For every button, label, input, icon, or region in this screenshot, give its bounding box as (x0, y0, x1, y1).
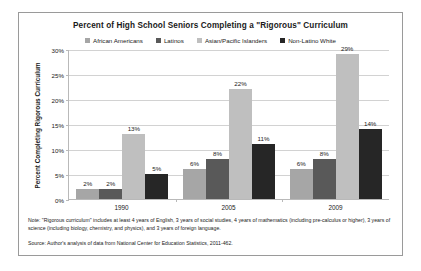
bar: 8% (313, 159, 336, 199)
bar: 14% (359, 129, 382, 199)
legend-item-asian-pacific-islanders: Asian/Pacific Islanders (197, 37, 267, 44)
legend-swatch-icon (156, 38, 161, 43)
bar: 6% (183, 169, 206, 199)
x-axis-tick-mark (282, 199, 283, 202)
x-axis-label: 1990 (68, 204, 175, 211)
note-text: Note: "Rigorous curriculum" includes at … (28, 216, 393, 232)
bar: 13% (122, 134, 145, 199)
bar-groups: 2%2%13%5%6%8%22%11%6%8%29%14% (69, 50, 389, 199)
legend-item-african-americans: African Americans (85, 37, 143, 44)
bar: 8% (206, 159, 229, 199)
bar-value-label: 6% (190, 160, 199, 167)
y-axis-title: Percent Completing Rigorous Curriculum (31, 50, 43, 200)
bar: 2% (76, 189, 99, 199)
y-tick-label: 30% (52, 47, 64, 54)
bar-value-label: 2% (106, 180, 115, 187)
bar-value-label: 2% (83, 180, 92, 187)
bar-value-label: 29% (341, 45, 353, 52)
y-tick-label: 25% (52, 72, 64, 79)
bar-group: 6%8%29%14% (282, 50, 389, 199)
bar: 6% (290, 169, 313, 199)
legend-swatch-icon (197, 38, 202, 43)
bar: 2% (99, 189, 122, 199)
x-axis-tick-mark (176, 199, 177, 202)
y-axis-ticks: 0%5%10%15%20%25%30% (44, 50, 66, 200)
bar: 29% (336, 54, 359, 199)
legend-label: Latinos (164, 37, 184, 44)
bar-value-label: 22% (234, 80, 246, 87)
legend-swatch-icon (85, 38, 90, 43)
x-axis-label: 2005 (175, 204, 282, 211)
legend-label: African Americans (93, 37, 143, 44)
y-tick-mark (66, 200, 69, 201)
y-tick-label: 20% (52, 97, 64, 104)
y-tick-label: 10% (52, 147, 64, 154)
chart-title: Percent of High School Seniors Completin… (19, 21, 402, 30)
legend-item-latinos: Latinos (156, 37, 184, 44)
legend-item-non-latino-white: Non-Latino White (280, 37, 336, 44)
legend-swatch-icon (280, 38, 285, 43)
plot-wrapper: Percent Completing Rigorous Curriculum 0… (33, 50, 389, 210)
x-axis-labels: 199020052009 (68, 204, 389, 211)
chart-figure: Percent of High School Seniors Completin… (18, 12, 403, 256)
x-axis-label: 2009 (282, 204, 389, 211)
y-tick-label: 5% (55, 172, 64, 179)
y-tick-label: 15% (52, 122, 64, 129)
bar-value-label: 5% (152, 165, 161, 172)
bar: 22% (229, 89, 252, 199)
bar-value-label: 6% (297, 160, 306, 167)
bar-value-label: 13% (128, 125, 140, 132)
legend-label: Asian/Pacific Islanders (205, 37, 267, 44)
bar-group: 6%8%22%11% (176, 50, 283, 199)
bar: 5% (145, 174, 168, 199)
bar-value-label: 8% (320, 150, 329, 157)
bar-group: 2%2%13%5% (69, 50, 176, 199)
chart-footnotes: Note: "Rigorous curriculum" includes at … (28, 216, 393, 247)
source-text: Source: Author's analysis of data from N… (28, 239, 393, 247)
y-axis-title-label: Percent Completing Rigorous Curriculum (34, 62, 41, 188)
bar: 11% (252, 144, 275, 199)
bar-value-label: 11% (258, 135, 270, 142)
bar-value-label: 8% (213, 150, 222, 157)
chart-legend: African Americans Latinos Asian/Pacific … (19, 37, 402, 44)
legend-label: Non-Latino White (288, 37, 336, 44)
plot-area: 2%2%13%5%6%8%22%11%6%8%29%14% (68, 50, 389, 200)
y-tick-label: 0% (55, 197, 64, 204)
bar-value-label: 14% (364, 120, 376, 127)
